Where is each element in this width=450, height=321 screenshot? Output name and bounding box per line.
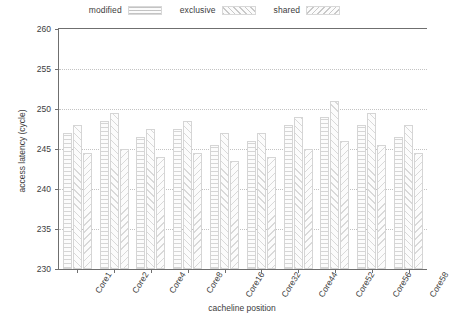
x-tick-label-Core2: Core2: [130, 270, 151, 295]
bar-exclusive-Core58: [404, 125, 413, 269]
x-tick-label-Core1: Core1: [93, 270, 114, 295]
y-tick-label: 245: [11, 144, 59, 154]
legend-swatch-shared: [306, 6, 340, 15]
bar-group: [317, 29, 354, 269]
x-tick-labels: Core1Core2Core4Core8Core16Core32Core44Co…: [58, 270, 426, 304]
legend-label-modified: modified: [89, 5, 122, 15]
bar-group: [206, 29, 243, 269]
x-tick-label-Core8: Core8: [204, 270, 225, 295]
bar-modified-Core44: [284, 125, 293, 269]
bar-series-container: [59, 29, 427, 269]
bar-modified-Core56: [357, 125, 366, 269]
bar-group: [353, 29, 390, 269]
chart-legend: modified exclusive shared: [0, 2, 429, 18]
bar-exclusive-Core56: [367, 113, 376, 269]
bar-shared-Core58: [414, 153, 423, 269]
x-axis-label: cacheline position: [58, 303, 426, 313]
bar-modified-Core4: [136, 137, 145, 269]
x-tick-label-Core32: Core32: [280, 270, 303, 299]
bar-exclusive-Core16: [220, 133, 229, 269]
bar-group: [96, 29, 133, 269]
bar-exclusive-Core2: [110, 113, 119, 269]
bar-group: [133, 29, 170, 269]
x-tick-label-Core44: Core44: [316, 270, 339, 299]
bar-shared-Core32: [267, 157, 276, 269]
legend-item-modified: modified: [89, 5, 162, 15]
y-tick-label: 240: [11, 184, 59, 194]
bar-exclusive-Core8: [183, 121, 192, 269]
plot-area: 230235240245250255260: [58, 28, 427, 269]
bar-shared-Core8: [193, 153, 202, 269]
legend-label-shared: shared: [274, 5, 301, 15]
bar-modified-Core16: [210, 145, 219, 269]
x-tick-label-Core4: Core4: [167, 270, 188, 295]
bar-group: [390, 29, 427, 269]
bar-shared-Core56: [377, 145, 386, 269]
bar-exclusive-Core32: [257, 133, 266, 269]
bar-shared-Core1: [83, 153, 92, 269]
legend-label-exclusive: exclusive: [180, 5, 216, 15]
bar-group: [169, 29, 206, 269]
legend-item-shared: shared: [274, 5, 341, 15]
bar-modified-Core2: [100, 121, 109, 269]
x-tick-label-Core58: Core58: [427, 270, 450, 299]
bar-shared-Core16: [230, 161, 239, 269]
legend-swatch-exclusive: [222, 6, 256, 15]
y-tick-label: 235: [11, 224, 59, 234]
y-tick-label: 260: [11, 24, 59, 34]
bar-modified-Core8: [173, 129, 182, 269]
bar-group: [280, 29, 317, 269]
y-tick-label: 250: [11, 104, 59, 114]
bar-modified-Core58: [394, 137, 403, 269]
bar-shared-Core44: [304, 149, 313, 269]
bar-exclusive-Core1: [73, 125, 82, 269]
bar-shared-Core4: [156, 157, 165, 269]
bar-modified-Core52: [320, 117, 329, 269]
bar-shared-Core52: [340, 141, 349, 269]
bar-shared-Core2: [120, 149, 129, 269]
bar-exclusive-Core52: [330, 101, 339, 269]
bar-exclusive-Core4: [146, 129, 155, 269]
y-tick-label: 230: [11, 264, 59, 274]
x-tick-label-Core56: Core56: [390, 270, 413, 299]
y-tick-label: 255: [11, 64, 59, 74]
bar-modified-Core1: [63, 133, 72, 269]
bar-exclusive-Core44: [294, 117, 303, 269]
legend-item-exclusive: exclusive: [180, 5, 256, 15]
x-tick-label-Core16: Core16: [243, 270, 266, 299]
bar-modified-Core32: [247, 141, 256, 269]
bar-group: [59, 29, 96, 269]
bar-group: [243, 29, 280, 269]
legend-swatch-modified: [128, 6, 162, 15]
plot-inner: 230235240245250255260: [59, 29, 427, 269]
x-tick-label-Core52: Core52: [353, 270, 376, 299]
